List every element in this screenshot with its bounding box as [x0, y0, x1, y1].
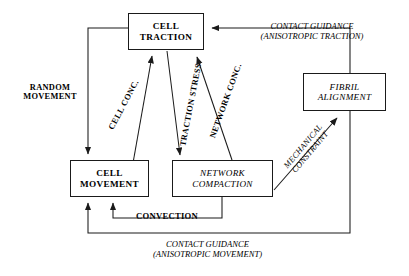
edge-label-contact-guidance-traction: CONTACT GUIDANCE (ANISOTROPIC TRACTION): [228, 22, 396, 41]
node-cell-traction[interactable]: CELL TRACTION: [128, 13, 204, 50]
node-cell-traction-label: CELL TRACTION: [129, 21, 203, 42]
edge-label-contact-guidance-movement: CONTACT GUIDANCE (ANISOTROPIC MOVEMENT): [120, 240, 295, 259]
diagram-connectors: [0, 0, 409, 276]
flow-diagram: CELL TRACTION FIBRIL ALIGNMENT CELL MOVE…: [0, 0, 409, 276]
node-fibril-alignment[interactable]: FIBRIL ALIGNMENT: [303, 73, 386, 111]
node-network-compaction-label: NETWORK COMPACTION: [173, 168, 272, 189]
edge-traction-stress: [167, 51, 180, 155]
node-cell-movement[interactable]: CELL MOVEMENT: [70, 160, 149, 197]
node-fibril-alignment-label: FIBRIL ALIGNMENT: [304, 82, 385, 103]
node-cell-movement-label: CELL MOVEMENT: [71, 168, 148, 189]
node-network-compaction[interactable]: NETWORK COMPACTION: [172, 160, 273, 197]
edge-label-convection: CONVECTION: [122, 212, 212, 222]
edge-label-random-movement: RANDOM MOVEMENT: [12, 83, 88, 102]
